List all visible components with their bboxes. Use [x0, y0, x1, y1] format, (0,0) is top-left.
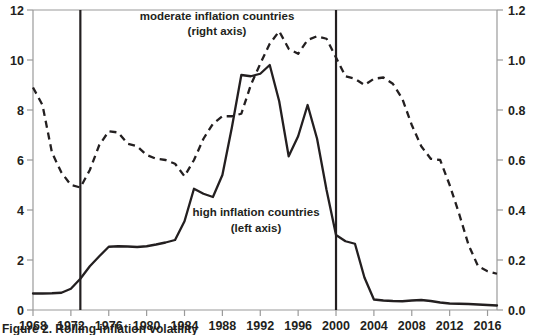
left-tick-label: 0 — [17, 304, 24, 318]
left-tick-label: 12 — [10, 4, 24, 18]
left-tick-label: 8 — [17, 104, 24, 118]
figure-container: 024681012 0.00.20.40.60.81.01.2 19681972… — [0, 0, 547, 335]
chart-background — [0, 0, 547, 335]
right-tick-label: 1.0 — [508, 54, 525, 68]
annotation-moderate-line2: (right axis) — [188, 25, 247, 37]
right-tick-label: 0.4 — [508, 204, 525, 218]
left-tick-label: 2 — [17, 254, 24, 268]
right-tick-label: 1.2 — [508, 4, 525, 18]
right-tick-label: 0.6 — [508, 154, 525, 168]
right-tick-label: 0.0 — [508, 304, 525, 318]
right-tick-label: 0.2 — [508, 254, 525, 268]
left-tick-label: 4 — [17, 204, 24, 218]
right-tick-label: 0.8 — [508, 104, 525, 118]
inflation-volatility-chart: 024681012 0.00.20.40.60.81.01.2 19681972… — [0, 0, 547, 335]
annotation-high-line1: high inflation countries — [192, 206, 319, 218]
left-tick-label: 10 — [10, 54, 24, 68]
annotation-high-line2: (left axis) — [231, 222, 282, 234]
annotation-moderate-line1: moderate inflation countries — [140, 10, 295, 22]
left-tick-label: 6 — [17, 154, 24, 168]
figure-caption: Figure 2. Rolling inflation volatility — [2, 322, 545, 335]
